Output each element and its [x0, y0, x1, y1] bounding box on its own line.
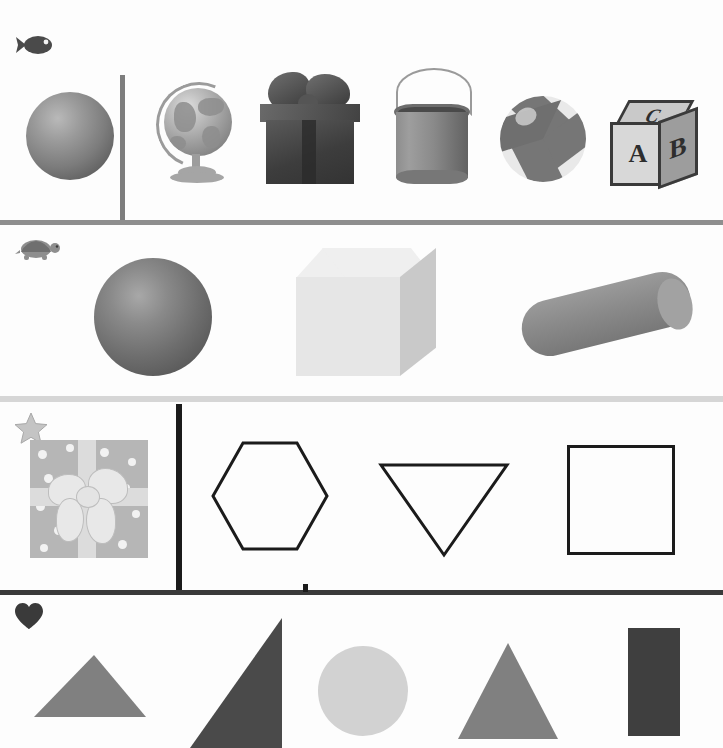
beach-ball-object [500, 96, 586, 182]
row-3-vertical-divider [176, 404, 182, 590]
fish-icon [14, 32, 60, 62]
row-1-divider [0, 220, 723, 225]
heart-icon [14, 602, 60, 632]
separator-stub [303, 584, 308, 592]
star-icon [14, 412, 60, 442]
sphere-object [26, 92, 114, 180]
turtle-icon [14, 236, 60, 266]
polka-dot-gift-object [30, 440, 148, 558]
right-triangle-shape [190, 618, 282, 748]
sphere-object [94, 258, 212, 376]
alphabet-block-object: C A B [610, 100, 696, 184]
gift-box-object [258, 72, 362, 184]
equilateral-triangle-shape [458, 643, 558, 739]
rectangle-shape [628, 628, 680, 736]
globe-object [152, 78, 240, 188]
square-outline-shape [566, 444, 676, 556]
circle-shape [318, 646, 408, 736]
row-3-divider [0, 590, 723, 595]
cylinder-object [520, 270, 700, 360]
obtuse-triangle-shape [34, 655, 146, 717]
paint-can-object [386, 68, 478, 186]
cube-object [296, 248, 436, 376]
row-1-vertical-divider [120, 75, 125, 223]
worksheet-page: C A B [0, 0, 723, 748]
row-2-divider [0, 396, 723, 402]
block-letter-side: B [658, 107, 698, 190]
hexagon-outline-shape [210, 440, 330, 552]
inverted-triangle-outline-shape [378, 462, 510, 558]
